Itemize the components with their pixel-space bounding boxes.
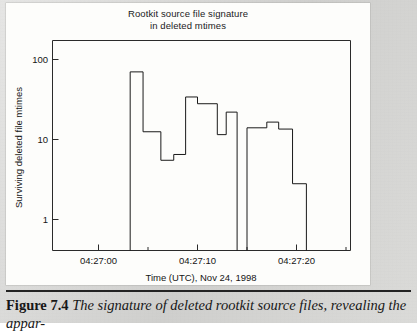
data-step-cluster-1 [130, 72, 237, 251]
x-tick-label-10: 04:27:10 [179, 255, 216, 266]
chart-plot-svg: 100 10 1 Surviving deleted file mtimes 0 [6, 3, 370, 285]
data-step-cluster-2 [247, 122, 306, 250]
plot-frame [53, 41, 351, 251]
chart-figure: Rootkit source file signature in deleted… [6, 3, 370, 285]
data-series-step-line [130, 72, 306, 251]
x-tick-label-0: 04:27:00 [80, 255, 117, 266]
figure-caption-label: Figure 7.4 [6, 297, 69, 313]
y-axis-tick-labels: 100 10 1 [32, 54, 48, 225]
y-tick-label-1: 1 [43, 214, 48, 225]
y-axis-ticks [53, 60, 59, 220]
figure-plate: Rootkit source file signature in deleted… [6, 3, 370, 285]
y-tick-label-10: 10 [37, 134, 48, 145]
y-tick-label-100: 100 [32, 54, 48, 65]
y-axis-title: Surviving deleted file mtimes [13, 87, 24, 208]
x-tick-label-20: 04:27:20 [278, 255, 315, 266]
caption-divider-rule [6, 290, 411, 292]
x-axis-ticks [99, 245, 347, 251]
x-axis-title: Time (UTC), Nov 24, 1998 [145, 272, 256, 283]
figure-caption: Figure 7.4 The signature of deleted root… [6, 296, 414, 332]
x-axis-tick-labels: 04:27:00 04:27:10 04:27:20 [80, 255, 315, 266]
